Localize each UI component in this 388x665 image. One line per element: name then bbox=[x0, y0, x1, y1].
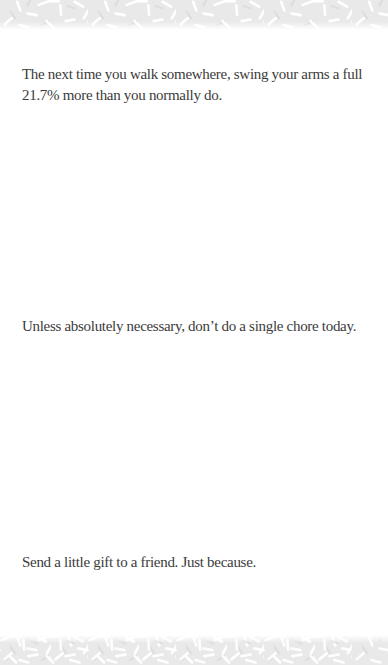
tip-text-walk: The next time you walk somewhere, swing … bbox=[22, 64, 376, 106]
confetti-top-band bbox=[0, 0, 388, 30]
tip-text-chores: Unless absolutely necessary, don’t do a … bbox=[22, 316, 376, 337]
page: { "page": { "background_color": "#ffffff… bbox=[0, 0, 388, 665]
confetti-bottom-band bbox=[0, 635, 388, 665]
tip-text-gift: Send a little gift to a friend. Just bec… bbox=[22, 552, 376, 573]
